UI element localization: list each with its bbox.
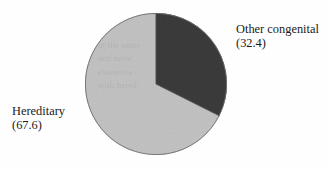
pie-chart-figure: of the same and more extensive with here… xyxy=(0,0,333,169)
pie-label-other-congenital: Other congenital (32.4) xyxy=(236,22,319,51)
pie-label-other-congenital-name: Other congenital xyxy=(236,22,319,36)
pie-svg xyxy=(85,13,227,155)
pie-label-other-congenital-value: (32.4) xyxy=(236,36,319,50)
pie-label-hereditary: Hereditary (67.6) xyxy=(12,104,65,133)
pie-chart: of the same and more extensive with here… xyxy=(85,13,227,155)
pie-label-hereditary-value: (67.6) xyxy=(12,118,65,132)
pie-label-hereditary-name: Hereditary xyxy=(12,104,65,118)
